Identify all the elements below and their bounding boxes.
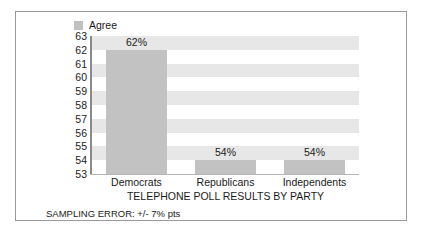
bar-rect bbox=[284, 160, 345, 174]
x-axis-label-democrats: Democrats bbox=[92, 177, 181, 188]
bar-rect bbox=[195, 160, 256, 174]
y-axis-tick-54: 54 bbox=[75, 155, 87, 166]
bar-independents: 54% bbox=[284, 36, 345, 174]
y-axis-tick-labels: 6362616059585756555453 bbox=[61, 36, 89, 174]
y-axis-tick-63: 63 bbox=[75, 31, 87, 42]
bar-republicans: 54% bbox=[195, 36, 256, 174]
sampling-error-note: SAMPLING ERROR: +/- 7% pts bbox=[46, 209, 180, 219]
plot-area: 62%54%54% bbox=[92, 36, 359, 174]
x-axis-line bbox=[90, 174, 359, 175]
x-axis-label-republicans: Republicans bbox=[181, 177, 270, 188]
bar-democrats: 62% bbox=[106, 36, 167, 174]
y-axis-tick-61: 61 bbox=[75, 58, 87, 69]
chart-frame: Agree 6362616059585756555453 62%54%54% D… bbox=[15, 11, 407, 221]
y-axis-tick-53: 53 bbox=[75, 169, 87, 180]
x-axis-category-labels: DemocratsRepublicansIndependents bbox=[92, 177, 359, 191]
y-axis-tick-57: 57 bbox=[75, 114, 87, 125]
legend-label-agree: Agree bbox=[89, 20, 117, 31]
y-axis-tick-58: 58 bbox=[75, 100, 87, 111]
legend-swatch-agree bbox=[74, 21, 83, 30]
bar-rect bbox=[106, 50, 167, 174]
y-axis-tick-59: 59 bbox=[75, 86, 87, 97]
x-axis-label-independents: Independents bbox=[270, 177, 359, 188]
bar-value-label: 62% bbox=[106, 37, 167, 48]
y-axis-tick-60: 60 bbox=[75, 72, 87, 83]
y-axis-tick-62: 62 bbox=[75, 45, 87, 56]
y-axis-tick-56: 56 bbox=[75, 127, 87, 138]
bar-series-agree: 62%54%54% bbox=[92, 36, 359, 174]
y-axis-tick-55: 55 bbox=[75, 141, 87, 152]
bar-value-label: 54% bbox=[195, 147, 256, 158]
chart-title: TELEPHONE POLL RESULTS BY PARTY bbox=[92, 191, 359, 202]
bar-value-label: 54% bbox=[284, 147, 345, 158]
plot-wrapper: 6362616059585756555453 62%54%54% bbox=[61, 36, 359, 174]
